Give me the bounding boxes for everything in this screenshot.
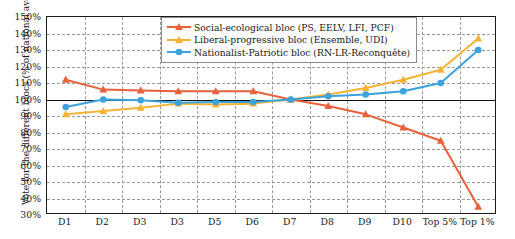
x-axis-tick-label: D7 <box>283 216 296 227</box>
x-axis-tick-labels: D1D2D3D3D5D6D7D8D9D10Top 5%Top 1% <box>46 216 496 236</box>
x-axis-tick-label: D3 <box>171 216 184 227</box>
legend-triangle-marker-icon <box>166 34 192 46</box>
x-axis-tick-label: D9 <box>358 216 371 227</box>
data-point <box>175 100 182 107</box>
legend-label: Liberal-progressive bloc (Ensemble, UDI) <box>192 34 388 45</box>
legend-label: Social-ecological bloc (PS, EELV, LFI, P… <box>192 22 394 33</box>
data-point <box>100 96 107 103</box>
data-point <box>362 91 369 98</box>
y-axis-tick-label: 30% <box>0 209 41 220</box>
data-point <box>212 99 219 106</box>
series-1 <box>62 76 482 210</box>
legend-item-2[interactable]: Liberal-progressive bloc (Ensemble, UDI) <box>166 34 410 47</box>
data-point <box>287 96 294 103</box>
y-axis-tick-label: 60% <box>0 159 41 170</box>
chart-container: Vote for the different blocs (% of natio… <box>0 0 515 239</box>
x-axis-tick-label: D8 <box>321 216 334 227</box>
y-axis-tick-label: 70% <box>0 143 41 154</box>
data-point <box>325 93 332 100</box>
legend-circle-marker-icon <box>166 46 192 58</box>
data-point <box>400 88 407 95</box>
y-axis-tick-label: 150% <box>0 11 41 22</box>
data-point <box>62 104 69 111</box>
x-axis-tick-label: D6 <box>246 216 259 227</box>
x-axis-tick-label: D2 <box>96 216 109 227</box>
data-point <box>437 80 444 87</box>
chart-legend: Social-ecological bloc (PS, EELV, LFI, P… <box>161 17 417 63</box>
x-axis-tick-label: D5 <box>208 216 221 227</box>
legend-item-3[interactable]: Nationalist-Patriotic bloc (RN-LR-Reconq… <box>166 46 410 59</box>
x-axis-tick-label: Top 5% <box>422 216 457 227</box>
y-axis-tick-label: 110% <box>0 77 41 88</box>
y-axis-tick-label: 140% <box>0 27 41 38</box>
data-point <box>475 47 482 54</box>
legend-triangle-marker-icon <box>166 21 192 33</box>
data-point <box>250 99 257 106</box>
data-point <box>62 76 70 83</box>
y-axis-tick-label: 40% <box>0 192 41 203</box>
x-axis-tick-label: Top 1% <box>460 216 495 227</box>
x-axis-tick-label: D10 <box>393 216 412 227</box>
data-point <box>474 34 482 41</box>
legend-label: Nationalist-Patriotic bloc (RN-LR-Reconq… <box>192 47 410 58</box>
data-point <box>137 97 144 104</box>
y-axis-tick-label: 120% <box>0 60 41 71</box>
x-axis-tick-label: D3 <box>133 216 146 227</box>
y-axis-tick-label: 130% <box>0 44 41 55</box>
x-axis-tick-label: D1 <box>58 216 71 227</box>
y-axis-tick-label: 80% <box>0 126 41 137</box>
y-axis-tick-label: 100% <box>0 93 41 104</box>
y-axis-tick-label: 90% <box>0 110 41 121</box>
legend-item-1[interactable]: Social-ecological bloc (PS, EELV, LFI, P… <box>166 21 410 34</box>
series-line <box>66 80 479 207</box>
y-axis-tick-label: 50% <box>0 176 41 187</box>
